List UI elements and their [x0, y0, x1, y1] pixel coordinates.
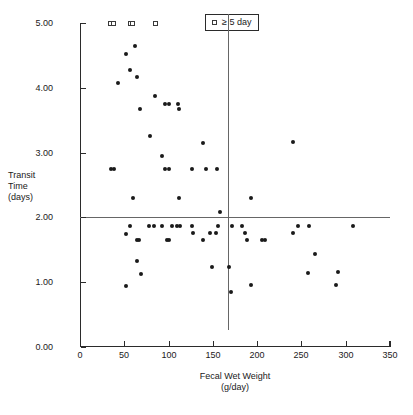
data-point [128, 224, 132, 228]
y-axis-title-line-3: (days) [8, 192, 74, 203]
data-point [167, 167, 171, 171]
x-axis-title-main: Fecal Wet Weight [80, 371, 390, 382]
data-point [190, 224, 194, 228]
data-point [177, 196, 181, 200]
data-point [334, 283, 338, 287]
data-point [152, 224, 156, 228]
y-axis-line [80, 23, 81, 347]
data-point [160, 224, 164, 228]
x-axis-tick [169, 341, 170, 347]
x-axis-tick [257, 341, 258, 347]
data-point [243, 231, 247, 235]
x-axis-tick-label: 100 [154, 351, 184, 360]
data-point [190, 167, 194, 171]
data-point [133, 44, 137, 48]
data-point [296, 224, 300, 228]
data-point [138, 107, 142, 111]
x-axis-tick-label: 150 [198, 351, 228, 360]
x-axis-tick [346, 341, 347, 347]
data-point [208, 231, 212, 235]
data-point [112, 167, 116, 171]
vertical-reference-line [228, 14, 229, 330]
data-point [178, 224, 182, 228]
scatter-plot-figure: Transit Time (days) Fecal Wet Weight (g/… [0, 0, 413, 415]
data-point-open-square [130, 21, 135, 26]
data-point [351, 224, 355, 228]
x-axis-tick [301, 341, 302, 347]
data-point [160, 154, 164, 158]
y-axis-tick [81, 153, 86, 154]
data-point [218, 210, 222, 214]
x-axis-tick-label: 0 [65, 351, 95, 360]
data-point [201, 141, 205, 145]
data-point [204, 167, 208, 171]
data-point [216, 224, 220, 228]
data-point [167, 102, 171, 106]
data-point [227, 265, 231, 269]
data-point [201, 238, 205, 242]
data-point [291, 140, 295, 144]
data-point [135, 75, 139, 79]
y-axis-tick-label: 5.00 [35, 19, 53, 28]
data-point [163, 102, 167, 106]
data-point [210, 265, 214, 269]
data-point [176, 102, 180, 106]
data-point [336, 270, 340, 274]
x-axis-tick [213, 341, 214, 347]
data-point [229, 290, 233, 294]
data-point [214, 231, 218, 235]
y-axis-tick-label: 2.00 [35, 213, 53, 222]
y-axis-tick [81, 23, 86, 24]
data-point [135, 259, 139, 263]
data-point [167, 238, 171, 242]
x-axis-tick [390, 341, 391, 347]
y-axis-tick-label: 1.00 [35, 278, 53, 287]
x-axis-tick-label: 350 [375, 351, 405, 360]
y-axis-tick-label: 3.00 [35, 149, 53, 158]
data-point [245, 238, 249, 242]
x-axis-tick [124, 341, 125, 347]
y-axis-tick [81, 347, 86, 348]
horizontal-reference-line [80, 217, 390, 218]
data-point [116, 81, 120, 85]
data-point [170, 224, 174, 228]
y-axis-tick [81, 282, 86, 283]
data-point-open-square [111, 21, 116, 26]
data-point [153, 94, 157, 98]
y-axis-title: Transit Time (days) [8, 170, 74, 203]
data-point [263, 238, 267, 242]
data-point [139, 272, 143, 276]
data-point [306, 271, 310, 275]
x-axis-line [80, 346, 390, 347]
data-point-open-square [153, 21, 158, 26]
data-point [124, 232, 128, 236]
y-axis-title-line-1: Transit [8, 170, 74, 181]
data-point [147, 224, 151, 228]
x-axis-title-units: (g/day) [80, 382, 390, 393]
data-point [240, 224, 244, 228]
data-point [291, 231, 295, 235]
data-point [307, 224, 311, 228]
x-axis-tick [80, 341, 81, 347]
x-axis-tick-label: 50 [109, 351, 139, 360]
x-axis-tick-label: 250 [286, 351, 316, 360]
y-axis-tick-label: 4.00 [35, 84, 53, 93]
data-point [313, 252, 317, 256]
y-axis-title-line-2: Time [8, 181, 74, 192]
plot-area: 0.001.002.003.004.005.00 050100150200250… [80, 23, 390, 347]
data-point [137, 238, 141, 242]
data-point [177, 107, 181, 111]
data-point [131, 196, 135, 200]
data-point [249, 196, 253, 200]
data-point [249, 283, 253, 287]
data-point [230, 224, 234, 228]
data-point [124, 284, 128, 288]
y-axis-tick [81, 88, 86, 89]
data-point [148, 134, 152, 138]
x-axis-tick-label: 300 [331, 351, 361, 360]
data-point [124, 52, 128, 56]
data-point [191, 231, 195, 235]
y-axis-tick [81, 217, 86, 218]
data-point [215, 167, 219, 171]
x-axis-title: Fecal Wet Weight (g/day) [80, 371, 390, 393]
